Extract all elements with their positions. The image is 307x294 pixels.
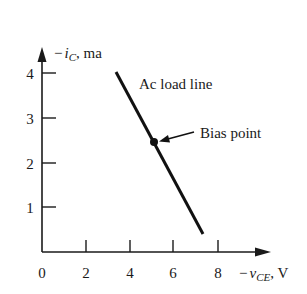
x-tick-label-6: 6 — [169, 265, 177, 281]
bias-point-label: Bias point — [200, 125, 262, 141]
y-tick-label-1: 1 — [26, 200, 34, 216]
y-axis-title: −iC, ma — [54, 45, 102, 63]
x-tick-label-2: 2 — [82, 265, 90, 281]
y-axis-arrow-icon — [38, 47, 47, 62]
load-line-chart: 4 3 2 1 0 2 4 6 8 −iC, ma −vCE, V Ac loa… — [0, 0, 307, 294]
x-tick-label-8: 8 — [214, 265, 222, 281]
y-tick-label-3: 3 — [26, 111, 34, 127]
x-axis-title: −vCE, V — [239, 265, 288, 283]
x-axis-arrow-icon — [255, 248, 271, 257]
load-line-label: Ac load line — [139, 76, 213, 92]
x-tick-label-0: 0 — [38, 265, 46, 281]
y-ticks — [42, 73, 56, 207]
y-tick-label-4: 4 — [26, 66, 34, 82]
x-tick-label-4: 4 — [126, 265, 134, 281]
bias-point-arrow — [166, 132, 194, 140]
arrowhead-icon — [159, 135, 170, 143]
ac-load-line — [116, 72, 203, 234]
bias-point-marker — [150, 138, 158, 146]
x-ticks — [86, 240, 218, 252]
y-tick-label-2: 2 — [26, 156, 34, 172]
